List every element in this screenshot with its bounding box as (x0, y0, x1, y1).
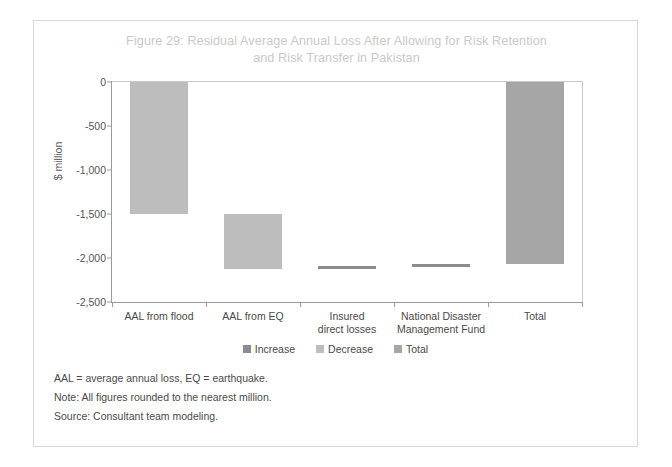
legend-swatch-icon (394, 345, 402, 353)
legend-swatch-icon (243, 345, 251, 353)
waterfall-bars (112, 82, 582, 302)
x-axis-label: Total (476, 310, 594, 323)
figure-notes: AAL = average annual loss, EQ = earthqua… (54, 369, 272, 426)
chart-title-line-2: and Risk Transfer in Pakistan (74, 50, 599, 67)
legend-label: Increase (255, 343, 295, 355)
x-axis-tick-mark (300, 302, 301, 307)
y-axis-tick-label: -2,500 (76, 296, 106, 308)
legend-item: Increase (243, 343, 295, 355)
figure-note-line: Source: Consultant team modeling. (54, 407, 272, 426)
y-axis-tick-label: -1,500 (76, 208, 106, 220)
figure-note-line: AAL = average annual loss, EQ = earthqua… (54, 369, 272, 388)
waterfall-bar (224, 214, 282, 269)
y-axis-tick-label: -500 (85, 120, 106, 132)
figure-note-line: Note: All figures rounded to the nearest… (54, 388, 272, 407)
plot-area: 0-500-1,000-1,500-2,000-2,500 AAL from f… (111, 81, 583, 303)
waterfall-bar (318, 266, 376, 269)
figure-frame: Figure 29: Residual Average Annual Loss … (33, 20, 638, 447)
x-axis-tick-mark (206, 302, 207, 307)
waterfall-bar (506, 82, 564, 264)
chart-legend: IncreaseDecreaseTotal (34, 343, 637, 355)
y-axis-tick-label: 0 (100, 76, 106, 88)
x-axis-tick-mark (488, 302, 489, 307)
x-axis-tick-mark (582, 302, 583, 307)
legend-label: Decrease (328, 343, 373, 355)
x-axis-tick-mark (394, 302, 395, 307)
legend-label: Total (406, 343, 428, 355)
y-axis-tick-label: -2,000 (76, 252, 106, 264)
x-axis-tick-mark (112, 302, 113, 307)
waterfall-bar (412, 264, 470, 267)
y-axis-tick-label: -1,000 (76, 164, 106, 176)
legend-item: Decrease (316, 343, 373, 355)
waterfall-bar (130, 82, 188, 214)
legend-item: Total (394, 343, 428, 355)
chart-title: Figure 29: Residual Average Annual Loss … (74, 33, 599, 67)
legend-swatch-icon (316, 345, 324, 353)
chart-title-line-1: Figure 29: Residual Average Annual Loss … (74, 33, 599, 50)
y-axis-title: $ million (52, 142, 64, 181)
